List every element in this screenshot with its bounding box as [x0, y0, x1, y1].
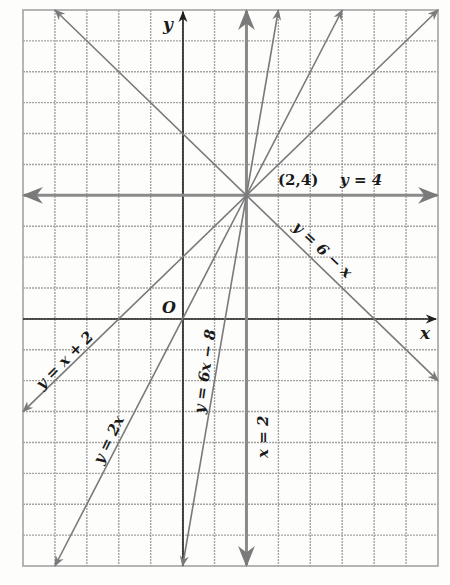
line-label-y-eq-4: y = 4	[339, 171, 382, 189]
origin-label: O	[162, 298, 176, 317]
x-axis-label: x	[419, 323, 431, 343]
line-label-x-eq-2: x = 2	[254, 416, 272, 459]
line-label-y-eq-6-minus-x: y = 6 − x	[289, 217, 357, 282]
coordinate-plane-figure: y x O (2,4) y = 4 y = 6 − x y = x + 2 y …	[0, 0, 450, 585]
point-label: (2,4)	[278, 171, 318, 189]
y-axis-label: y	[162, 14, 174, 34]
line-label-y-eq-2x: y = 2x	[89, 412, 128, 468]
